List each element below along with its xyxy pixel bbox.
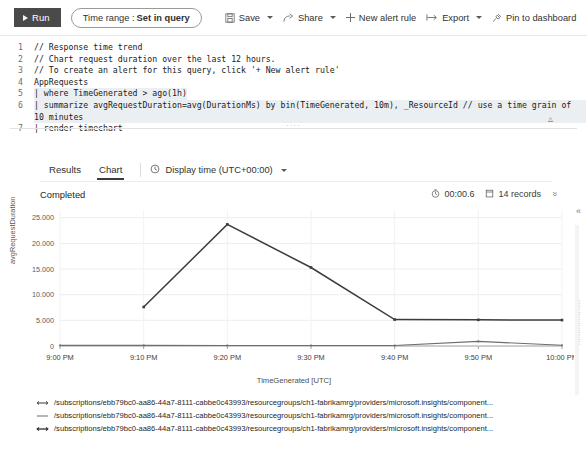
tab-results[interactable]: Results [40,161,90,180]
play-icon [23,15,28,21]
collapse-editor-chevron-up-icon[interactable]: ▵ [548,114,553,124]
line-text: // Response time trend [34,42,142,54]
svg-text:0: 0 [50,342,54,351]
line-number: 4 [18,77,34,89]
pin-to-dashboard-button[interactable]: Pin to dashboard [487,11,581,25]
time-range-value: Set in query [137,13,190,23]
legend-marker-icon [36,399,49,407]
svg-text:9:30 PM: 9:30 PM [297,353,325,362]
tab-chart[interactable]: Chart [90,161,131,180]
run-button[interactable]: Run [14,8,61,27]
export-icon [426,13,438,22]
legend-label: /subscriptions/ebb79bc0-aa86-44a7-8111-c… [54,424,493,433]
line-text: | where TimeGenerated > ago(1h) [34,88,187,100]
legend-marker-icon [36,412,49,420]
display-time-dropdown[interactable]: Display time (UTC+00:00) [150,164,286,176]
chart-gridlines [60,210,562,349]
export-button[interactable]: Export [421,11,487,25]
stopwatch-icon [431,189,440,200]
svg-text:10:00 PM: 10:00 PM [546,353,574,362]
line-text: AppRequests [34,77,88,89]
records-value: 14 records [498,189,541,199]
plus-icon [346,13,355,22]
code-line: 3 // To create an alert for this query, … [0,65,587,77]
pin-label: Pin to dashboard [506,13,576,23]
tabbar-divider [140,163,141,177]
records-metric: 14 records [485,189,541,200]
chart-y-axis-label: avgRequestDuration [8,197,17,264]
line-number: 5 [18,88,34,100]
legend-marker-icon [36,425,49,433]
legend-item[interactable]: /subscriptions/ebb79bc0-aa86-44a7-8111-c… [36,409,556,422]
chart-canvas: 05.00010.00015.00020.00025.000 9:00 PM9:… [14,204,574,376]
chart-x-ticks: 9:00 PM9:10 PM9:20 PM9:30 PM9:40 PM9:50 … [46,353,574,362]
line-text: | summarize avgRequestDuration=avg(Durat… [34,100,586,123]
line-number: 1 [18,42,34,54]
share-label: Share [298,13,323,23]
code-line: 6 | summarize avgRequestDuration=avg(Dur… [0,100,587,123]
svg-text:10.000: 10.000 [32,290,54,299]
save-icon [225,13,235,23]
line-number: 3 [18,65,34,77]
export-label: Export [442,13,469,23]
svg-text:20.000: 20.000 [32,239,54,248]
svg-text:25.000: 25.000 [32,213,54,222]
svg-text:9:40 PM: 9:40 PM [381,353,409,362]
results-status-row: Completed 00:00.6 14 records » [0,184,587,204]
svg-text:9:10 PM: 9:10 PM [130,353,158,362]
duration-value: 00:00.6 [444,189,474,199]
timechart: avgRequestDuration TimeGenerated [UTC] 0… [14,204,574,390]
line-number: 2 [18,54,34,66]
share-icon [283,13,294,23]
display-time-label: Display time (UTC+00:00) [165,165,272,175]
expand-results-chevron-icon[interactable]: » [549,191,559,196]
results-tabbar: Results Chart Display time (UTC+00:00) [0,158,587,182]
chart-x-axis-label: TimeGenerated [UTC] [14,376,574,385]
duration-metric: 00:00.6 [431,189,474,200]
legend-item[interactable]: /subscriptions/ebb79bc0-aa86-44a7-8111-c… [36,422,556,435]
code-line: 4 AppRequests [0,77,587,89]
svg-text:5.000: 5.000 [36,316,54,325]
line-number: 6 [18,100,34,112]
clock-icon [150,164,160,176]
run-button-label: Run [32,12,50,23]
chevron-down-icon [476,16,482,19]
line-text: // Chart request duration over the last … [34,54,276,66]
panel-resize-grip[interactable]: ···· [286,124,308,127]
code-line: 1 // Response time trend [0,42,587,54]
code-line: 2 // Chart request duration over the las… [0,54,587,66]
code-line: 5 | where TimeGenerated > ago(1h) [0,88,587,100]
panel-divider [10,128,577,129]
svg-text:9:00 PM: 9:00 PM [46,353,74,362]
legend-label: /subscriptions/ebb79bc0-aa86-44a7-8111-c… [54,398,493,407]
time-range-picker[interactable]: Time range : Set in query [71,8,202,28]
share-button[interactable]: Share [278,11,341,25]
svg-text:15.000: 15.000 [32,265,54,274]
query-toolbar: Run Time range : Set in query Save Share… [0,0,587,36]
chart-y-ticks: 05.00010.00015.00020.00025.000 [32,213,54,350]
chevron-down-icon [281,169,287,172]
collapse-chart-panel-icon[interactable]: « [576,206,581,216]
svg-text:9:50 PM: 9:50 PM [465,353,493,362]
status-metrics: 00:00.6 14 records » [431,189,557,200]
line-text: // To create an alert for this query, cl… [34,65,340,77]
save-label: Save [239,13,260,23]
pin-icon [492,13,502,23]
new-alert-rule-button[interactable]: New alert rule [341,11,421,25]
chevron-down-icon [267,16,273,19]
legend-label: /subscriptions/ebb79bc0-aa86-44a7-8111-c… [54,411,493,420]
chevron-down-icon [330,16,336,19]
new-alert-rule-label: New alert rule [359,13,416,23]
chart-side-vertical-text: .................... [578,300,585,346]
status-label: Completed [40,189,85,200]
tabbar-underline [40,181,552,182]
records-icon [485,189,494,200]
query-editor[interactable]: 1 // Response time trend 2 // Chart requ… [0,36,587,124]
time-range-prefix: Time range : [83,13,135,23]
chart-legend: /subscriptions/ebb79bc0-aa86-44a7-8111-c… [36,396,556,435]
svg-text:9:20 PM: 9:20 PM [214,353,242,362]
legend-item[interactable]: /subscriptions/ebb79bc0-aa86-44a7-8111-c… [36,396,556,409]
save-button[interactable]: Save [220,11,278,25]
